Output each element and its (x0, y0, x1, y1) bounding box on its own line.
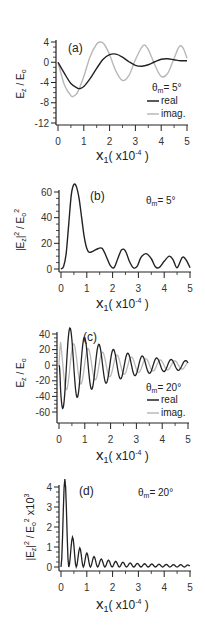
svg-text:1: 1 (81, 136, 87, 147)
panel-b-xlabel: x1( x10-4 ) (96, 294, 149, 313)
svg-text:1: 1 (84, 283, 90, 294)
svg-text:60: 60 (41, 187, 53, 198)
svg-text:40: 40 (41, 212, 53, 223)
svg-text:3: 3 (46, 502, 52, 513)
svg-text:4: 4 (161, 283, 167, 294)
svg-text:4: 4 (159, 434, 165, 445)
figure: 40-4-8-12012345 (a) θm= 5° real imag. Ez… (0, 0, 205, 638)
panel-a-ylabel: Ez / Eo (15, 69, 27, 98)
svg-text:3: 3 (134, 434, 140, 445)
svg-text:0: 0 (46, 264, 52, 275)
panel-b: 0204060012345 (b) θm= 5° |Ez|2 / Eo2 x1(… (13, 184, 193, 313)
svg-text:2: 2 (110, 283, 116, 294)
svg-text:0: 0 (58, 283, 64, 294)
svg-text:2: 2 (108, 434, 114, 445)
panel-c-theta-annotation: θm= 20° (146, 382, 181, 394)
svg-text:1: 1 (84, 582, 90, 593)
svg-text:-60: -60 (36, 407, 51, 418)
svg-text:5: 5 (185, 434, 191, 445)
svg-text:0: 0 (56, 434, 62, 445)
svg-text:5: 5 (187, 582, 193, 593)
panel-b-theta-annotation: θm= 5° (146, 195, 176, 207)
svg-text:2: 2 (46, 522, 52, 533)
panel-d-label: (d) (79, 484, 94, 498)
panel-d: 01234012345 (d) θm= 20° |Ez|2 / Eo2 x103… (23, 479, 193, 614)
svg-text:4: 4 (43, 37, 49, 48)
svg-text:-20: -20 (36, 375, 51, 386)
panel-c: 40200-20-40-60012345 (c) θm= 20° real im… (15, 328, 191, 465)
svg-text:-12: -12 (35, 118, 50, 129)
svg-text:0: 0 (55, 136, 61, 147)
panel-c-label: (c) (83, 330, 97, 344)
svg-text:5: 5 (184, 136, 190, 147)
panel-d-theta-annotation: θm= 20° (138, 487, 173, 499)
svg-text:4: 4 (161, 582, 167, 593)
svg-text:20: 20 (41, 238, 53, 249)
svg-text:2: 2 (110, 582, 116, 593)
legend-imag-label: imag. (161, 108, 185, 119)
svg-text:40: 40 (39, 329, 51, 340)
svg-text:4: 4 (158, 136, 164, 147)
svg-text:-4: -4 (40, 77, 49, 88)
panel-a-xlabel: x1( x10-4 ) (96, 146, 149, 165)
legend-real-label: real (161, 95, 178, 106)
svg-text:4: 4 (46, 482, 52, 493)
legend-imag-label: imag. (161, 407, 185, 418)
panel-b-ylabel: |Ez|2 / Eo2 (13, 209, 27, 251)
svg-text:3: 3 (136, 283, 142, 294)
svg-text:1: 1 (46, 542, 52, 553)
panel-d-xlabel: x1( x10-4 ) (96, 595, 149, 614)
svg-text:0: 0 (58, 582, 64, 593)
panel-d-ylabel: |Ez|2 / Eo2 x103 (23, 493, 37, 560)
svg-text:5: 5 (187, 283, 193, 294)
panel-a-theta-annotation: θm= 5° (152, 82, 182, 94)
panel-c-ylabel: Ez / Eo (15, 358, 27, 387)
svg-text:-8: -8 (40, 97, 49, 108)
svg-text:0: 0 (43, 57, 49, 68)
svg-text:2: 2 (107, 136, 113, 147)
panel-a: 40-4-8-12012345 (a) θm= 5° real imag. Ez… (15, 37, 190, 166)
panel-d-axes: 01234012345 (46, 482, 193, 594)
panel-c-xlabel: x1( x10-4 ) (96, 446, 149, 465)
svg-text:0: 0 (44, 360, 50, 371)
panel-b-label: (b) (90, 189, 105, 203)
svg-text:0: 0 (46, 562, 52, 573)
svg-text:-40: -40 (36, 391, 51, 402)
svg-text:3: 3 (136, 582, 142, 593)
svg-text:1: 1 (82, 434, 88, 445)
legend-real-label: real (161, 394, 178, 405)
svg-text:20: 20 (39, 344, 51, 355)
panel-a-label: (a) (68, 41, 83, 55)
svg-text:3: 3 (133, 136, 139, 147)
